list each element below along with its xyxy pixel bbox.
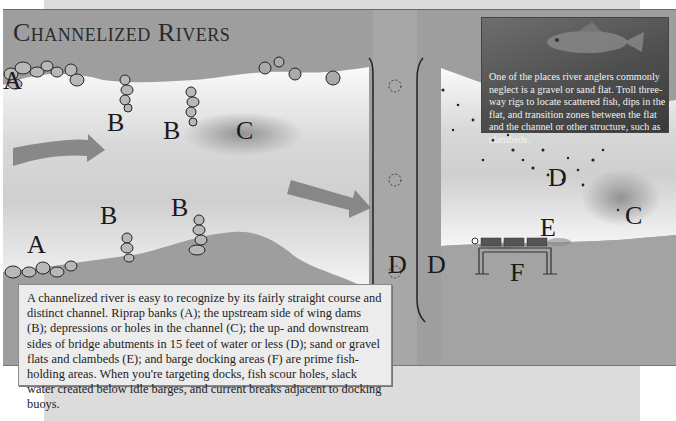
hole-c-right: [581, 170, 661, 226]
callout-box: One of the places river anglers commonly…: [481, 17, 669, 133]
label-f: F: [510, 260, 524, 286]
fish-photo: [482, 18, 668, 68]
label-e: E: [540, 215, 556, 241]
river-bank-bottom-right: [441, 235, 676, 365]
diagram-title: Channelized Rivers: [13, 18, 230, 48]
label-b: B: [107, 110, 124, 136]
caption-text: A channelized river is easy to recognize…: [27, 291, 381, 411]
label-c: C: [236, 118, 253, 144]
label-a: A: [27, 232, 46, 258]
label-a: A: [3, 68, 22, 94]
label-d: D: [427, 252, 446, 278]
river-channel-left: [3, 67, 369, 290]
label-b: B: [100, 203, 117, 229]
label-b: B: [171, 195, 188, 221]
bridge-abutment-right: [417, 58, 425, 322]
callout-text: One of the places river anglers commonly…: [489, 71, 667, 147]
label-b: B: [163, 118, 180, 144]
docking-buoy-icon: [472, 238, 478, 244]
label-c: C: [625, 203, 642, 229]
label-d: D: [388, 252, 407, 278]
label-d: D: [548, 165, 567, 191]
caption-box: A channelized river is easy to recognize…: [18, 284, 392, 386]
